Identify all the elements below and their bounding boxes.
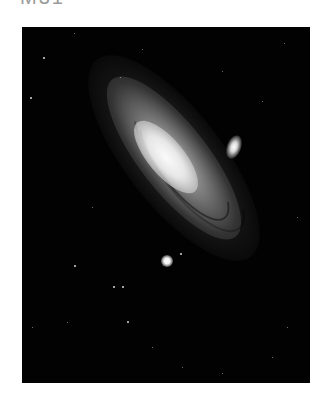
star — [120, 77, 121, 78]
star — [182, 367, 183, 368]
star — [222, 71, 223, 72]
star — [297, 217, 298, 218]
satellite-galaxy-upper-right — [223, 133, 244, 160]
page: M31 — [0, 0, 324, 408]
star — [74, 265, 76, 267]
satellite-galaxy-lower-left — [161, 255, 173, 267]
star — [127, 321, 129, 323]
star — [92, 207, 93, 208]
star — [152, 347, 153, 348]
star — [222, 373, 223, 374]
star — [180, 253, 182, 255]
page-heading: M31 — [20, 0, 65, 9]
star — [284, 43, 285, 44]
star — [142, 49, 143, 50]
star — [30, 97, 32, 99]
star — [262, 101, 263, 102]
star — [287, 327, 288, 328]
star — [67, 322, 68, 323]
star — [122, 286, 124, 288]
star — [113, 286, 115, 288]
star — [272, 357, 273, 358]
star — [74, 33, 75, 34]
star — [32, 327, 33, 328]
star — [43, 57, 45, 59]
galaxy-photo — [22, 27, 310, 383]
